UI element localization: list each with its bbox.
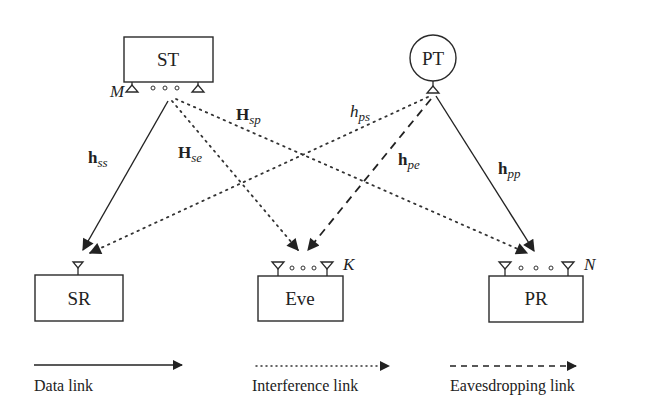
legend-label-data: Data link	[34, 377, 93, 394]
system-model-diagram: hss Hse Hsp hps hpe hpp ST M PT	[0, 0, 654, 414]
channel-label-H-sp: Hsp	[236, 105, 261, 127]
legend-item-data-link: Data link	[34, 365, 182, 394]
antenna-icon	[73, 262, 83, 275]
channel-label-h-ps: hps	[350, 102, 370, 124]
channel-label-h-ss: hss	[88, 148, 108, 170]
link-st-sr-data	[83, 101, 168, 250]
antenna-count-N: N	[583, 255, 597, 274]
node-sr-label: SR	[67, 288, 91, 309]
legend-item-eavesdropping-link: Eavesdropping link	[450, 366, 576, 395]
legend-item-interference-link: Interference link	[252, 366, 389, 394]
node-pt: PT	[410, 35, 456, 93]
link-st-eve-interference	[172, 101, 298, 250]
node-eve-label: Eve	[285, 288, 315, 309]
channel-label-h-pe: hpe	[398, 150, 420, 172]
legend: Data link Interference link Eavesdroppin…	[34, 365, 576, 395]
node-pr: PR N	[489, 255, 597, 322]
antenna-count-M: M	[109, 82, 125, 101]
link-st-pr-interference	[176, 99, 527, 253]
node-pt-label: PT	[422, 48, 445, 69]
node-st: ST M	[109, 37, 213, 101]
antenna-array-icon	[126, 82, 204, 92]
node-st-label: ST	[157, 49, 180, 70]
antenna-icon	[427, 81, 439, 93]
channel-label-h-pp: hpp	[498, 159, 521, 181]
antenna-count-K: K	[342, 255, 356, 274]
node-eve: Eve K	[258, 255, 356, 321]
antenna-array-icon	[272, 262, 333, 276]
channel-label-H-se: Hse	[178, 143, 202, 165]
legend-label-eavesdropping: Eavesdropping link	[450, 377, 575, 395]
antenna-array-icon	[499, 262, 574, 276]
legend-label-interference: Interference link	[252, 377, 358, 394]
node-pr-label: PR	[524, 288, 548, 309]
node-sr: SR	[35, 262, 123, 321]
